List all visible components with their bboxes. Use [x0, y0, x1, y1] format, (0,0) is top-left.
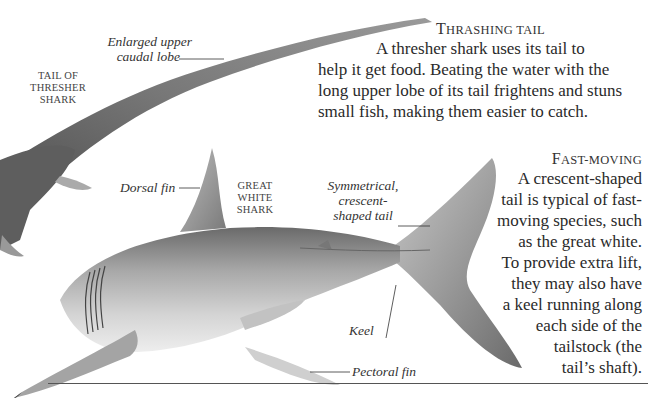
callout-line: caudal lobe: [102, 49, 192, 64]
dorsal-fin-callout: Dorsal fin: [120, 180, 175, 195]
keel-callout: Keel: [349, 323, 374, 338]
section-heading: Fast-moving: [470, 150, 642, 168]
callout-line: Symmetrical,: [318, 178, 408, 193]
text-line: each side of the: [470, 315, 642, 336]
callout-line: crescent-: [318, 193, 408, 208]
section-body: A crescent-shaped tail is typical of fas…: [470, 168, 642, 378]
text-line: a keel running along: [470, 294, 642, 315]
caption-line: thresher: [26, 82, 90, 94]
callout-line: Enlarged upper: [102, 34, 192, 49]
section-fast-moving: Fast-moving A crescent-shaped tail is ty…: [470, 150, 642, 378]
callout-line: shaped tail: [318, 208, 408, 223]
text-line: A thresher shark uses its tail to: [318, 38, 644, 59]
upper-lobe-callout: Enlarged upper caudal lobe: [102, 34, 192, 64]
text-line: long upper lobe of its tail frightens an…: [318, 80, 644, 101]
text-line: tail’s shaft).: [470, 357, 642, 378]
text-line: as the great white.: [470, 231, 642, 252]
text-line: moving species, such: [470, 210, 642, 231]
caption-line: Great: [232, 180, 278, 192]
text-line: tailstock (the: [470, 336, 642, 357]
text-line: tail is typical of fast-: [470, 189, 642, 210]
text-line: small fish, making them easier to catch.: [318, 101, 644, 122]
caption-line: Tail of: [26, 70, 90, 82]
section-body: A thresher shark uses its tail to help i…: [318, 38, 644, 122]
caption-line: shark: [26, 94, 90, 106]
section-heading: Thrashing tail: [436, 20, 644, 38]
text-line: To provide extra lift,: [470, 252, 642, 273]
pectoral-fin-callout: Pectoral fin: [352, 364, 416, 379]
bottom-rule: [48, 383, 648, 384]
caption-line: white: [232, 192, 278, 204]
text-line: help it get food. Beating the water with…: [318, 59, 644, 80]
tail-callout: Symmetrical, crescent- shaped tail: [318, 178, 408, 223]
text-line: they may also have: [470, 273, 642, 294]
section-thrashing-tail: Thrashing tail A thresher shark uses its…: [318, 20, 644, 122]
caption-line: shark: [232, 204, 278, 216]
text-line: A crescent-shaped: [470, 168, 642, 189]
thresher-caption: Tail of thresher shark: [26, 70, 90, 106]
great-white-caption: Great white shark: [232, 180, 278, 216]
